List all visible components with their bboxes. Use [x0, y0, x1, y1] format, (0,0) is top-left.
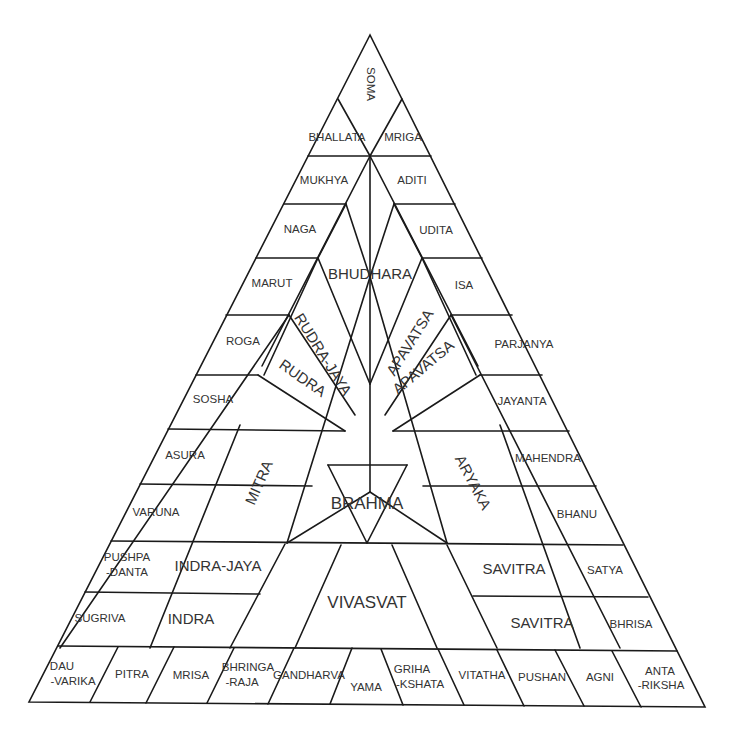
- label-mrisa: MRISA: [173, 669, 210, 681]
- label-mahendra: MAHENDRA: [515, 452, 581, 464]
- label-marut: MARUT: [252, 277, 293, 289]
- label-yama: YAMA: [350, 681, 382, 693]
- label-sosha: SOSHA: [193, 393, 234, 405]
- label-antariksha-2: -RIKSHA: [638, 679, 685, 691]
- label-mriga: MRIGA: [384, 131, 422, 143]
- label-grihakshata-2: -KSHATA: [396, 678, 444, 690]
- label-pitra: PITRA: [115, 668, 149, 680]
- label-indra: INDRA: [168, 610, 215, 627]
- label-savitra-upper: SAVITRA: [482, 560, 545, 577]
- bhudhara-left-out: [318, 204, 346, 258]
- soma-right-divider: [370, 99, 402, 156]
- label-pushpadanta-2: -DANTA: [106, 566, 148, 578]
- label-sugriva: SUGRIVA: [75, 612, 126, 624]
- band-line-485-left: [140, 484, 312, 486]
- label-mitra: MITRA: [241, 458, 276, 508]
- label-isa: ISA: [455, 279, 474, 291]
- bottom-div-2: [146, 647, 174, 703]
- label-vitatha: VITATHA: [459, 669, 506, 681]
- label-jayanta: JAYANTA: [497, 395, 547, 407]
- label-roga: ROGA: [226, 335, 260, 347]
- label-bhanu: BHANU: [557, 508, 597, 520]
- band-line-430-left: [168, 429, 345, 431]
- label-aryaka: ARYAKA: [452, 452, 495, 513]
- label-savitra-lower: SAVITRA: [510, 614, 573, 631]
- label-mukhya: MUKHYA: [300, 174, 349, 186]
- label-bhrisa: BHRISA: [610, 618, 653, 630]
- label-indra-jaya: INDRA-JAYA: [175, 557, 262, 574]
- bhudhara-right-out: [394, 204, 422, 258]
- bottom-div-10: [612, 651, 641, 707]
- label-naga: NAGA: [284, 223, 317, 235]
- band-line-593-left: [85, 592, 260, 594]
- vastu-mandala-diagram: SOMA BHALLATA MRIGA MUKHYA ADITI NAGA UD…: [0, 0, 741, 751]
- label-vivasvat: VIVASVAT: [327, 593, 406, 612]
- bottom-div-6: [381, 649, 403, 705]
- label-satya: SATYA: [587, 564, 623, 576]
- label-dauvarika-1: DAU: [50, 660, 74, 672]
- label-varuna: VARUNA: [132, 506, 179, 518]
- label-agni: AGNI: [586, 671, 614, 683]
- label-gandharva: GANDHARVA: [273, 669, 345, 681]
- band-line-593-right: [473, 596, 648, 597]
- label-parjanya: PARJANYA: [494, 338, 553, 350]
- label-aditi: ADITI: [397, 174, 426, 186]
- label-bhringaraja-1: BHRINGA: [222, 661, 275, 673]
- label-brahma: BRAHMA: [331, 494, 404, 513]
- label-bhringaraja-2: -RAJA: [225, 676, 259, 688]
- soma-left-divider: [338, 99, 370, 156]
- label-soma: SOMA: [365, 67, 377, 101]
- band-line-648: [58, 646, 677, 651]
- label-dauvarika-2: -VARIKA: [50, 675, 95, 687]
- label-asura: ASURA: [165, 449, 205, 461]
- label-pushan: PUSHAN: [518, 671, 566, 683]
- label-bhudhara: BHUDHARA: [328, 265, 412, 282]
- label-antariksha-1: ANTA: [645, 665, 675, 677]
- label-udita: UDITA: [419, 224, 453, 236]
- label-bhallata: BHALLATA: [308, 131, 365, 143]
- label-pushpadanta-1: PUSHPA: [104, 551, 151, 563]
- label-grihakshata-1: GRIHA: [394, 663, 431, 675]
